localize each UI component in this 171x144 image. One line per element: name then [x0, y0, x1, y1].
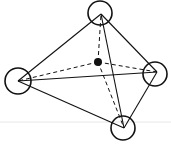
bond-center-top — [98, 14, 101, 62]
atoms — [5, 1, 167, 140]
edge-top-bottom — [101, 14, 124, 128]
edge-right-bottom — [124, 72, 157, 128]
tetrahedron-diagram — [0, 0, 171, 144]
edges — [18, 14, 157, 128]
edge-left-bottom — [18, 81, 124, 128]
atom-right — [143, 62, 167, 86]
atom-top — [88, 1, 112, 25]
edge-top-left — [18, 14, 101, 81]
edge-left-right — [18, 72, 157, 81]
central-atom — [94, 58, 102, 66]
